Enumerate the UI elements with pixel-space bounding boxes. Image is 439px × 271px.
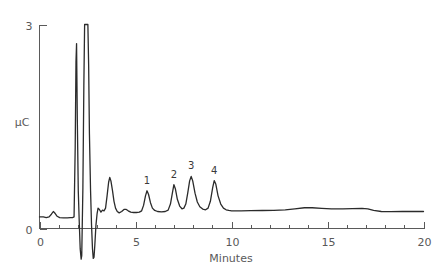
x-tick-label: 20	[418, 236, 432, 249]
y-tick-label: 3	[26, 20, 33, 33]
peak-label-1: 1	[144, 175, 150, 186]
peak-label-3: 3	[188, 160, 194, 171]
chromatogram-chart: 03 05101520 1234 Minutes µC	[0, 0, 439, 271]
x-tick-label: 5	[133, 236, 140, 249]
peak-label-4: 4	[211, 165, 217, 176]
x-axis-title: Minutes	[209, 252, 253, 265]
x-tick-label: 10	[226, 236, 240, 249]
plot-area: 03 05101520 1234 Minutes µC	[0, 0, 439, 271]
y-tick-label: 0	[26, 224, 33, 237]
peak-label-2: 2	[171, 169, 177, 180]
y-axis-title: µC	[15, 116, 30, 129]
x-tick-label: 15	[322, 236, 336, 249]
x-tick-label: 0	[37, 236, 44, 249]
chart-background	[0, 0, 439, 271]
